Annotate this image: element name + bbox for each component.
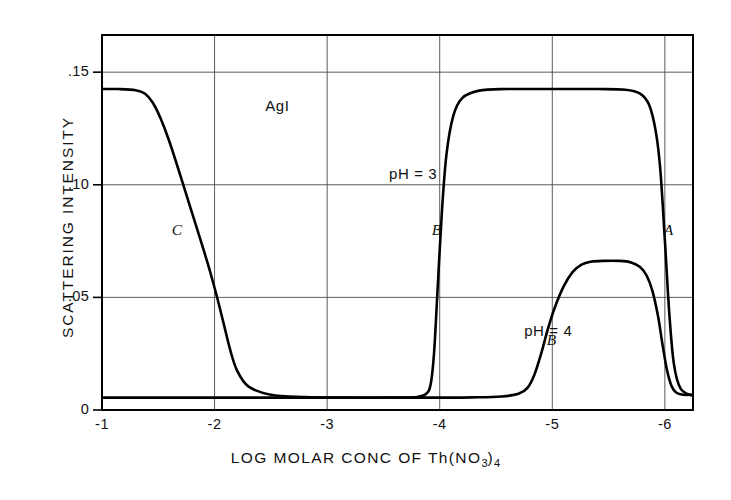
ph3-label: pH = 3 xyxy=(389,165,437,182)
y-tick-label: .15 xyxy=(33,63,89,79)
axes-frame xyxy=(102,35,693,410)
x-tick-label: -1 xyxy=(75,416,129,432)
data-curve-2 xyxy=(102,261,693,398)
curve-label-b-upper: B xyxy=(432,221,441,239)
curve-label-b-lower: B xyxy=(547,331,556,349)
x-tick-label: -2 xyxy=(188,416,242,432)
y-tick-label: .05 xyxy=(33,288,89,304)
figure-container: SCATTERING INTENSITY LOG MOLAR CONC OF T… xyxy=(0,0,731,500)
data-curve-1 xyxy=(102,89,693,398)
x-tick-label: -6 xyxy=(638,416,692,432)
sample-label: AgI xyxy=(265,97,289,114)
curve-label-c: C xyxy=(172,221,182,239)
series-group xyxy=(102,89,693,398)
x-tick-label: -4 xyxy=(413,416,467,432)
x-tick-label: -3 xyxy=(300,416,354,432)
y-tick-label: .10 xyxy=(33,176,89,192)
curve-label-a: A xyxy=(664,221,673,239)
x-tick-label: -5 xyxy=(525,416,579,432)
y-tick-label: 0 xyxy=(33,401,89,417)
